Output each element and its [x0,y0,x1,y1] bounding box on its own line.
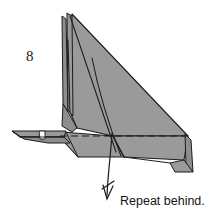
base-panel-group [62,132,188,160]
origami-diagram-root: 8 Repeat behind. [0,0,212,220]
main-wing-body [68,14,188,136]
main-wing-panel [68,14,188,136]
instruction-caption: Repeat behind. [120,194,205,208]
step-number-label: 8 [26,48,34,64]
beak-notch [39,131,45,139]
origami-illustration: 8 Repeat behind. [0,0,212,220]
